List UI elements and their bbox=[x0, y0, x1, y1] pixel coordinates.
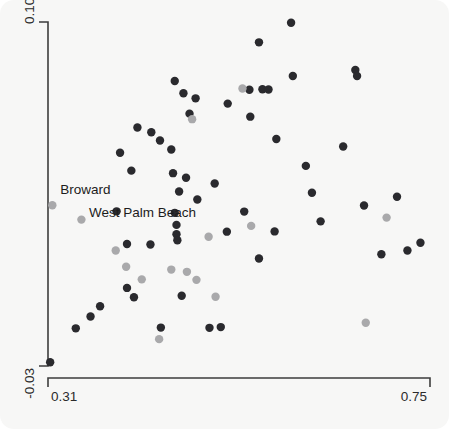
y-axis-max-tick-label: 0.107 bbox=[22, 0, 37, 24]
data-point-dark bbox=[217, 323, 225, 331]
data-point-dark bbox=[393, 193, 401, 201]
data-point-dark bbox=[360, 201, 368, 209]
data-point-gray bbox=[122, 263, 130, 271]
y-axis-line bbox=[39, 22, 48, 366]
data-point-gray bbox=[48, 201, 56, 209]
plot-canvas: BrowardWest Palm Beach 0.107-0.030.310.7… bbox=[0, 0, 449, 429]
data-point-dark bbox=[123, 284, 131, 292]
data-point-gray bbox=[188, 115, 196, 123]
data-point-dark bbox=[255, 254, 263, 262]
data-point-dark bbox=[272, 135, 280, 143]
data-point-gray bbox=[167, 265, 175, 273]
data-point-gray bbox=[362, 319, 370, 327]
data-point-dark bbox=[127, 166, 135, 174]
data-point-dark bbox=[123, 240, 131, 248]
data-point-gray bbox=[155, 335, 163, 343]
data-point-dark bbox=[72, 324, 80, 332]
data-point-dark bbox=[240, 207, 248, 215]
data-point-dark bbox=[46, 358, 54, 366]
data-point-gray bbox=[183, 268, 191, 276]
data-point-dark bbox=[302, 162, 310, 170]
data-point-dark bbox=[308, 189, 316, 197]
x-axis-line bbox=[48, 378, 430, 387]
data-point-dark bbox=[173, 236, 181, 244]
data-point-dark bbox=[169, 169, 177, 177]
data-point-dark bbox=[339, 142, 347, 150]
data-point-dark bbox=[146, 240, 154, 248]
data-point-dark bbox=[353, 72, 361, 80]
data-point-dark bbox=[191, 94, 199, 102]
scatter-plot-figure: BrowardWest Palm Beach 0.107-0.030.310.7… bbox=[0, 0, 449, 429]
data-point-gray bbox=[211, 293, 219, 301]
data-point-dark bbox=[403, 246, 411, 254]
data-point-dark bbox=[245, 86, 253, 94]
data-point-dark bbox=[178, 291, 186, 299]
data-point-dark bbox=[86, 312, 94, 320]
data-point-dark bbox=[167, 145, 175, 153]
data-point-dark bbox=[179, 89, 187, 97]
data-point-dark bbox=[255, 38, 263, 46]
data-point-gray bbox=[77, 215, 85, 223]
data-point-dark bbox=[246, 112, 254, 120]
data-point-dark bbox=[156, 136, 164, 144]
annotation-labels-group: BrowardWest Palm Beach bbox=[60, 182, 196, 220]
data-point-dark bbox=[175, 187, 183, 195]
data-point-dark bbox=[205, 324, 213, 332]
data-point-dark bbox=[289, 72, 297, 80]
x-axis-min-tick-label: 0.31 bbox=[51, 389, 77, 404]
data-point-dark bbox=[133, 123, 141, 131]
data-point-dark bbox=[171, 77, 179, 85]
data-point-dark bbox=[223, 227, 231, 235]
data-point-dark bbox=[130, 293, 138, 301]
data-point-dark bbox=[96, 302, 104, 310]
data-point-dark bbox=[270, 227, 278, 235]
data-point-dark bbox=[224, 99, 232, 107]
data-point-gray bbox=[204, 232, 212, 240]
data-point-dark bbox=[416, 239, 424, 247]
data-point-gray bbox=[238, 84, 246, 92]
data-point-dark bbox=[193, 195, 201, 203]
data-point-dark bbox=[147, 128, 155, 136]
annotation-label: Broward bbox=[60, 182, 110, 197]
data-point-dark bbox=[172, 221, 180, 229]
data-point-dark bbox=[182, 173, 190, 181]
data-point-dark bbox=[116, 149, 124, 157]
data-point-dark bbox=[157, 323, 165, 331]
data-point-dark bbox=[377, 250, 385, 258]
y-axis-min-tick-label: -0.03 bbox=[22, 368, 37, 399]
data-point-dark bbox=[210, 179, 218, 187]
annotation-label: West Palm Beach bbox=[89, 205, 196, 220]
data-point-dark bbox=[287, 19, 295, 27]
data-point-gray bbox=[138, 275, 146, 283]
data-point-dark bbox=[264, 85, 272, 93]
data-point-dark bbox=[316, 217, 324, 225]
data-point-gray bbox=[382, 213, 390, 221]
data-point-gray bbox=[247, 222, 255, 230]
data-point-gray bbox=[192, 276, 200, 284]
data-point-gray bbox=[112, 246, 120, 254]
x-axis-max-tick-label: 0.75 bbox=[401, 389, 427, 404]
